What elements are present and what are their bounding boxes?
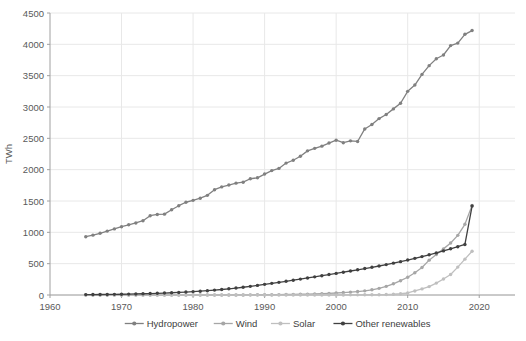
data-point xyxy=(270,282,273,285)
data-point xyxy=(334,139,337,142)
data-point xyxy=(220,185,223,188)
data-point xyxy=(334,272,337,275)
data-point xyxy=(213,293,216,296)
data-point xyxy=(98,293,101,296)
legend-item-hydropower[interactable]: Hydropower xyxy=(125,318,198,329)
data-point xyxy=(91,233,94,236)
data-point xyxy=(399,292,402,295)
data-point xyxy=(435,281,438,284)
data-point xyxy=(170,291,173,294)
data-series-group xyxy=(84,29,474,297)
data-point xyxy=(148,214,151,217)
data-point xyxy=(370,288,373,291)
data-point xyxy=(385,113,388,116)
x-tick-label: 1990 xyxy=(254,301,275,312)
data-point xyxy=(399,279,402,282)
data-point xyxy=(113,227,116,230)
legend-label: Hydropower xyxy=(147,318,198,329)
data-point xyxy=(84,293,87,296)
data-point xyxy=(263,172,266,175)
data-point xyxy=(277,167,280,170)
legend-label: Wind xyxy=(236,318,258,329)
legend-marker-icon xyxy=(341,321,345,325)
y-tick-label: 3500 xyxy=(23,70,44,81)
legend-marker-icon xyxy=(132,321,136,325)
data-point xyxy=(306,149,309,152)
data-point xyxy=(227,183,230,186)
data-point xyxy=(292,159,295,162)
data-point xyxy=(120,293,123,296)
data-point xyxy=(284,161,287,164)
data-point xyxy=(456,234,459,237)
legend-marker-icon xyxy=(278,321,282,325)
data-point xyxy=(349,269,352,272)
data-point xyxy=(342,293,345,296)
y-tick-label: 500 xyxy=(28,258,44,269)
data-point xyxy=(277,293,280,296)
data-point xyxy=(313,147,316,150)
series-hydropower xyxy=(84,29,474,239)
data-point xyxy=(456,41,459,44)
data-point xyxy=(241,293,244,296)
data-point xyxy=(141,292,144,295)
data-point xyxy=(184,293,187,296)
data-point xyxy=(227,287,230,290)
data-point xyxy=(406,90,409,93)
chart-canvas: 050010001500200025003000350040004500 196… xyxy=(0,0,526,341)
data-point xyxy=(420,266,423,269)
data-point xyxy=(191,290,194,293)
legend-item-other-renewables[interactable]: Other renewables xyxy=(333,318,430,329)
data-point xyxy=(191,199,194,202)
data-point xyxy=(377,264,380,267)
x-tick-label: 2020 xyxy=(469,301,490,312)
data-point xyxy=(442,249,445,252)
data-point xyxy=(435,251,438,254)
data-point xyxy=(184,290,187,293)
data-point xyxy=(406,276,409,279)
legend-item-wind[interactable]: Wind xyxy=(214,318,258,329)
data-point xyxy=(463,223,466,226)
data-point xyxy=(377,293,380,296)
data-point xyxy=(470,29,473,32)
data-point xyxy=(349,293,352,296)
data-point xyxy=(156,292,159,295)
x-axis-tick-labels: 1960197019801990200020102020 xyxy=(39,301,489,312)
data-point xyxy=(199,289,202,292)
data-point xyxy=(313,293,316,296)
data-point xyxy=(442,53,445,56)
data-point xyxy=(427,285,430,288)
data-point xyxy=(427,253,430,256)
legend-item-solar[interactable]: Solar xyxy=(271,318,315,329)
data-point xyxy=(356,268,359,271)
data-point xyxy=(213,188,216,191)
data-point xyxy=(170,208,173,211)
data-point xyxy=(449,44,452,47)
data-point xyxy=(220,293,223,296)
data-point xyxy=(163,291,166,294)
data-point xyxy=(370,123,373,126)
legend-label: Solar xyxy=(293,318,315,329)
y-tick-label: 4500 xyxy=(23,8,44,19)
data-point xyxy=(363,127,366,130)
data-point xyxy=(127,223,130,226)
y-tick-label: 0 xyxy=(39,290,44,301)
data-point xyxy=(385,263,388,266)
y-tick-label: 1500 xyxy=(23,196,44,207)
data-point xyxy=(385,293,388,296)
data-point xyxy=(213,288,216,291)
y-tick-label: 1000 xyxy=(23,227,44,238)
data-point xyxy=(263,293,266,296)
data-point xyxy=(349,139,352,142)
data-point xyxy=(106,293,109,296)
data-point xyxy=(399,260,402,263)
data-point xyxy=(156,213,159,216)
data-point xyxy=(449,247,452,250)
data-point xyxy=(420,255,423,258)
y-axis-title-text: TWh xyxy=(3,144,14,164)
data-point xyxy=(241,286,244,289)
data-point xyxy=(220,288,223,291)
data-point xyxy=(206,194,209,197)
legend-marker-icon xyxy=(221,321,225,325)
data-point xyxy=(399,102,402,105)
data-point xyxy=(199,293,202,296)
